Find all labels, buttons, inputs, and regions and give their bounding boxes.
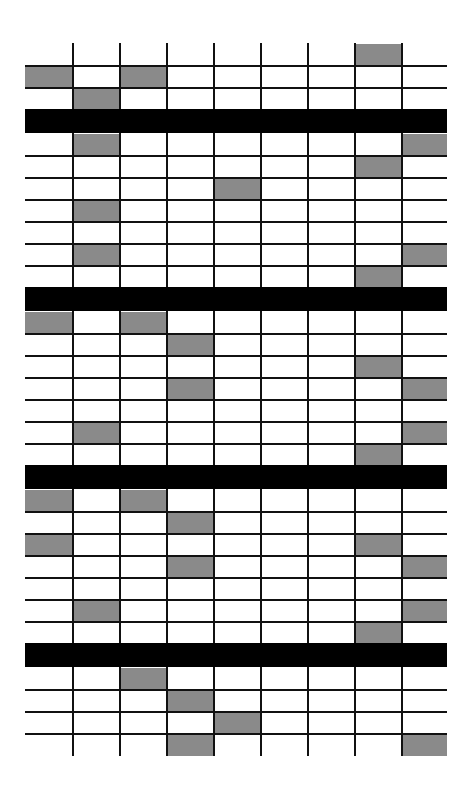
filled-cell xyxy=(355,266,402,288)
filled-cell xyxy=(25,312,73,334)
filled-cell xyxy=(355,534,402,556)
filled-cell xyxy=(167,378,214,400)
filled-cell xyxy=(402,734,447,756)
grid-line-horizontal xyxy=(25,577,447,579)
separator-bar xyxy=(25,643,447,667)
grid-line-horizontal xyxy=(25,421,447,423)
grid-line-horizontal xyxy=(25,265,447,267)
grid-line-horizontal xyxy=(25,621,447,623)
filled-cell xyxy=(25,66,73,88)
filled-cell xyxy=(402,600,447,622)
filled-cell xyxy=(73,600,120,622)
filled-cell xyxy=(73,200,120,222)
grid-line-horizontal xyxy=(25,689,447,691)
filled-cell xyxy=(402,378,447,400)
grid-line-horizontal xyxy=(25,333,447,335)
filled-cell xyxy=(120,312,167,334)
grid-line-horizontal xyxy=(25,711,447,713)
grid-line-horizontal xyxy=(25,87,447,89)
filled-cell xyxy=(120,490,167,512)
separator-bar xyxy=(25,465,447,489)
filled-cell xyxy=(355,356,402,378)
grid-line-horizontal xyxy=(25,533,447,535)
grid-line-horizontal xyxy=(25,221,447,223)
grid-line-horizontal xyxy=(25,355,447,357)
filled-cell xyxy=(25,534,73,556)
grid-line-horizontal xyxy=(25,555,447,557)
filled-cell xyxy=(167,690,214,712)
filled-cell xyxy=(402,422,447,444)
filled-cell xyxy=(120,668,167,690)
filled-cell xyxy=(73,134,120,156)
filled-cell xyxy=(73,244,120,266)
pattern-grid xyxy=(0,0,472,793)
separator-bar xyxy=(25,109,447,133)
filled-cell xyxy=(402,134,447,156)
filled-cell xyxy=(214,178,261,200)
filled-cell xyxy=(355,44,402,66)
grid-line-horizontal xyxy=(25,65,447,67)
filled-cell xyxy=(355,622,402,644)
grid-line-horizontal xyxy=(25,599,447,601)
grid-line-horizontal xyxy=(25,243,447,245)
filled-cell xyxy=(167,334,214,356)
grid-line-horizontal xyxy=(25,399,447,401)
filled-cell xyxy=(73,88,120,110)
grid-line-horizontal xyxy=(25,199,447,201)
filled-cell xyxy=(167,556,214,578)
grid-line-horizontal xyxy=(25,155,447,157)
grid-line-horizontal xyxy=(25,177,447,179)
filled-cell xyxy=(167,512,214,534)
filled-cell xyxy=(120,66,167,88)
grid-line-horizontal xyxy=(25,511,447,513)
filled-cell xyxy=(25,490,73,512)
grid-line-horizontal xyxy=(25,377,447,379)
filled-cell xyxy=(402,244,447,266)
separator-bar xyxy=(25,287,447,311)
filled-cell xyxy=(402,556,447,578)
filled-cell xyxy=(214,712,261,734)
filled-cell xyxy=(355,156,402,178)
grid-line-horizontal xyxy=(25,443,447,445)
filled-cell xyxy=(167,734,214,756)
filled-cell xyxy=(355,444,402,466)
filled-cell xyxy=(73,422,120,444)
grid-line-horizontal xyxy=(25,733,447,735)
